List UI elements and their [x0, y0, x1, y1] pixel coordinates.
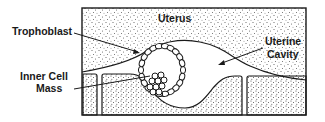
label-uterus: Uterus: [158, 12, 191, 24]
trophoblast-cell: [138, 66, 143, 73]
inner-cell: [149, 78, 155, 84]
implantation-diagram: Uterus Trophoblast Uterine Cavity Inner …: [0, 0, 325, 122]
label-inner-cell-mass-line1: Inner Cell: [20, 70, 68, 82]
trophoblast-cell: [180, 66, 185, 73]
endometrium-left-gland: [83, 74, 97, 115]
inner-cell: [156, 89, 162, 95]
endometrium-right-gland: [247, 76, 306, 115]
inner-cell: [150, 89, 156, 95]
label-inner-cell-mass-line2: Mass: [36, 82, 62, 94]
inner-cell: [159, 83, 165, 89]
inner-cell: [161, 77, 167, 83]
label-uterine-cavity-line1: Uterine: [265, 35, 301, 47]
label-trophoblast: Trophoblast: [12, 25, 73, 37]
label-uterine-cavity-line2: Cavity: [267, 48, 299, 60]
uterine-cavity-arrowhead: [218, 60, 225, 65]
trophoblast-cell: [179, 59, 186, 67]
